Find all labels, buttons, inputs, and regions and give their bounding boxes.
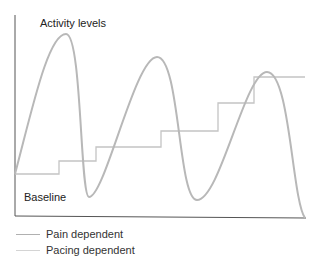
- pacing-swatch-icon: [16, 250, 40, 251]
- legend-item-pacing: Pacing dependent: [16, 242, 135, 258]
- legend-label: Pain dependent: [46, 226, 123, 242]
- pain-swatch-icon: [16, 234, 40, 235]
- legend-label: Pacing dependent: [46, 242, 135, 258]
- legend: Pain dependent Pacing dependent: [16, 226, 135, 258]
- baseline-label: Baseline: [24, 191, 66, 203]
- legend-item-pain: Pain dependent: [16, 226, 135, 242]
- chart-title: Activity levels: [40, 17, 107, 29]
- pacing-dependent-line: [15, 77, 305, 174]
- x-axis: [15, 216, 306, 218]
